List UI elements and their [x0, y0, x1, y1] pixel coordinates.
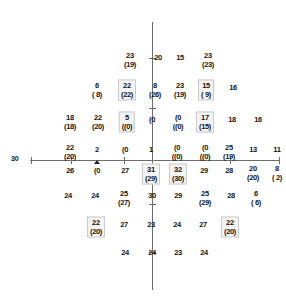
field-point: 24: [121, 248, 129, 257]
field-point: 2: [95, 145, 99, 154]
field-point-value: 18: [228, 115, 236, 124]
field-point-corrected-value: (19): [174, 90, 186, 99]
axis-tick: [124, 157, 125, 164]
field-point: (0: [122, 145, 128, 154]
field-point: 8( 2): [272, 165, 282, 182]
axis-tick: [279, 157, 280, 164]
field-point-corrected-value: (20): [247, 173, 259, 182]
field-point-value: 30: [148, 191, 156, 200]
field-point-value: 2: [95, 145, 99, 154]
field-point-corrected-value: (29): [199, 198, 211, 207]
field-point-corrected-value: ((0): [173, 122, 183, 131]
field-point: 18(18): [64, 114, 76, 131]
field-point-value: (0: [149, 115, 155, 124]
field-point: 27: [120, 220, 128, 229]
field-point-value: 24: [121, 248, 129, 257]
field-point-corrected-value: (20): [90, 227, 102, 236]
axis-tick-label-30: 30: [11, 155, 18, 162]
field-point-value: 28: [225, 166, 233, 175]
axis-tick: [149, 204, 156, 205]
field-point: 28: [225, 166, 233, 175]
field-point-corrected-value: ( 6): [251, 198, 261, 207]
field-point-value: 24: [91, 191, 99, 200]
field-point: 24: [173, 220, 181, 229]
field-point: 31(29): [142, 164, 160, 185]
field-point: 27: [199, 220, 207, 229]
field-point-value: 11: [273, 145, 280, 154]
field-point: 29: [174, 191, 182, 200]
field-point-corrected-value: (23): [202, 60, 214, 69]
field-point-value: 16: [254, 115, 262, 124]
field-point: 26: [66, 166, 74, 175]
field-point: 18: [228, 115, 236, 124]
field-point-corrected-value: (19): [223, 152, 235, 161]
field-point: 6( 6): [251, 190, 261, 207]
field-point: (0: [149, 115, 155, 124]
field-point: 27: [121, 166, 129, 175]
field-point: 24: [200, 248, 208, 257]
field-point-corrected-value: (19): [124, 60, 136, 69]
field-point-corrected-value: (15): [199, 122, 211, 131]
axis-tick: [149, 108, 156, 109]
field-point: 6( 8): [92, 82, 102, 99]
field-point: (0((0): [173, 114, 183, 131]
field-point-corrected-value: ( 2): [272, 173, 282, 182]
field-point: 15: [176, 53, 184, 62]
field-point-value: 27: [199, 220, 207, 229]
field-point: (0((0): [172, 144, 182, 161]
field-point: 22(20): [87, 217, 105, 238]
field-point-corrected-value: (20): [92, 122, 104, 131]
field-point: 24: [91, 191, 99, 200]
field-point: (0: [94, 166, 100, 175]
field-point-value: 28: [227, 191, 235, 200]
field-point: 22(20): [221, 217, 239, 238]
field-point: 17(15): [196, 112, 214, 133]
field-point: 16: [254, 115, 262, 124]
field-point: 29: [200, 166, 208, 175]
field-point-value: 15: [176, 53, 184, 62]
field-point-corrected-value: (18): [64, 122, 76, 131]
field-point: 23(19): [124, 52, 136, 69]
visual-field-plot: 30 23(19)201523(23)6( 8)22(22)8(26)23(19…: [0, 0, 286, 305]
field-point-value: 29: [200, 166, 208, 175]
field-point: 23(19): [174, 82, 186, 99]
field-point: 11: [273, 145, 280, 154]
field-point: 25(19): [223, 144, 235, 161]
field-point-corrected-value: (20): [224, 227, 236, 236]
field-point-value: 27: [120, 220, 128, 229]
field-point: 23(23): [202, 52, 214, 69]
field-point-corrected-value: ( 8): [92, 90, 102, 99]
field-point: 5((0): [119, 112, 135, 133]
field-point-corrected-value: (27): [118, 198, 130, 207]
field-point-value: (0: [122, 145, 128, 154]
field-point-value: 24: [173, 220, 181, 229]
field-point: 16: [229, 83, 237, 92]
field-point: 30: [148, 191, 156, 200]
field-point-value: 20: [154, 53, 162, 62]
field-point: 23: [174, 248, 182, 257]
field-point-value: 23: [174, 248, 182, 257]
field-point-corrected-value: (20): [64, 152, 76, 161]
field-point: (0((0): [200, 144, 210, 161]
field-point-value: 24: [200, 248, 208, 257]
field-point-value: 24: [148, 248, 156, 257]
field-point: 23: [147, 220, 155, 229]
field-point: 20: [154, 53, 162, 62]
field-point: 20(20): [247, 165, 259, 182]
field-point-corrected-value: (22): [121, 90, 133, 99]
field-point: 1: [149, 145, 153, 154]
field-point-corrected-value: ((0): [172, 152, 182, 161]
field-point-corrected-value: (26): [149, 90, 161, 99]
field-point: 25(29): [199, 190, 211, 207]
field-point: 22(22): [118, 80, 136, 101]
field-point-value: 27: [121, 166, 129, 175]
field-point-corrected-value: ((0): [122, 122, 132, 131]
field-point: 22(20): [64, 144, 76, 161]
field-point-corrected-value: ( 9): [201, 90, 211, 99]
field-point-corrected-value: (30): [172, 174, 184, 183]
field-point-value: 16: [229, 83, 237, 92]
field-point-corrected-value: (29): [145, 174, 157, 183]
field-point: 13: [249, 145, 257, 154]
field-point: 24: [64, 191, 72, 200]
field-point-value: 13: [249, 145, 257, 154]
